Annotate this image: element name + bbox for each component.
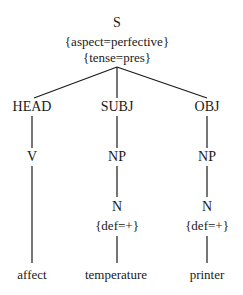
edge-s-head: [34, 67, 117, 98]
edge-s-obj: [117, 67, 207, 98]
node-v: V: [27, 150, 37, 164]
node-subj: SUBJ: [101, 100, 134, 114]
root-node-s: S: [113, 16, 121, 30]
leaf-affect: affect: [17, 268, 46, 281]
feature-def-subj: {def=+}: [95, 219, 139, 232]
root-feature-aspect: {aspect=perfective}: [65, 35, 169, 48]
feature-def-obj: {def=+}: [185, 219, 229, 232]
node-obj: OBJ: [195, 100, 220, 114]
node-n-obj: N: [202, 200, 212, 214]
leaf-printer: printer: [190, 268, 225, 281]
node-np-obj: NP: [198, 150, 216, 164]
root-feature-tense: {tense=pres}: [83, 51, 151, 64]
node-np-subj: NP: [108, 150, 126, 164]
leaf-temperature: temperature: [85, 268, 147, 281]
node-head: HEAD: [13, 100, 52, 114]
node-n-subj: N: [112, 200, 122, 214]
